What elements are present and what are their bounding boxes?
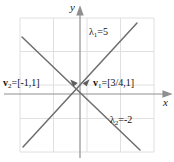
label-lambda1: λ1=5 (89, 27, 108, 39)
y-axis-arrow-icon (77, 7, 83, 15)
y-axis-label: y (70, 2, 75, 13)
label-v2-value: [-1,1] (17, 77, 40, 88)
eigenvector-diagram: λ1=5 λ2=-2 v2=[-1,1] v1=[3/4,1] y x (0, 0, 174, 162)
label-v2: v2=[-1,1] (3, 78, 40, 90)
label-lambda2: λ2=-2 (110, 115, 132, 127)
label-v1-value: [3/4,1] (107, 77, 134, 88)
label-v1: v1=[3/4,1] (93, 78, 134, 90)
label-lambda2-value: -2 (124, 114, 132, 125)
v2-arrowhead-icon (70, 79, 78, 86)
label-lambda1-value: 5 (103, 26, 108, 37)
x-axis-label: x (163, 97, 168, 108)
